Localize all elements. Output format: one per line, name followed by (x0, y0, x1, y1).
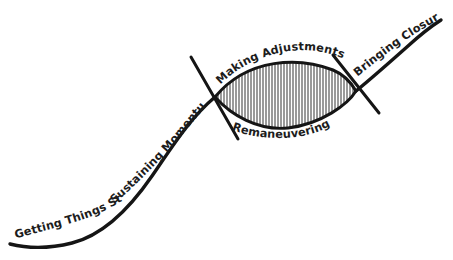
label-getting-things-started: Getting Things Started (0, 0, 124, 241)
label-sustaining-momentum: Sustaining Momentum (0, 0, 208, 206)
s-curve-diagram: Getting Things Started Sustaining Moment… (0, 0, 453, 260)
diagram-canvas: Getting Things Started Sustaining Moment… (0, 0, 453, 260)
label-bringing-closure: Bringing Closure (0, 0, 441, 79)
